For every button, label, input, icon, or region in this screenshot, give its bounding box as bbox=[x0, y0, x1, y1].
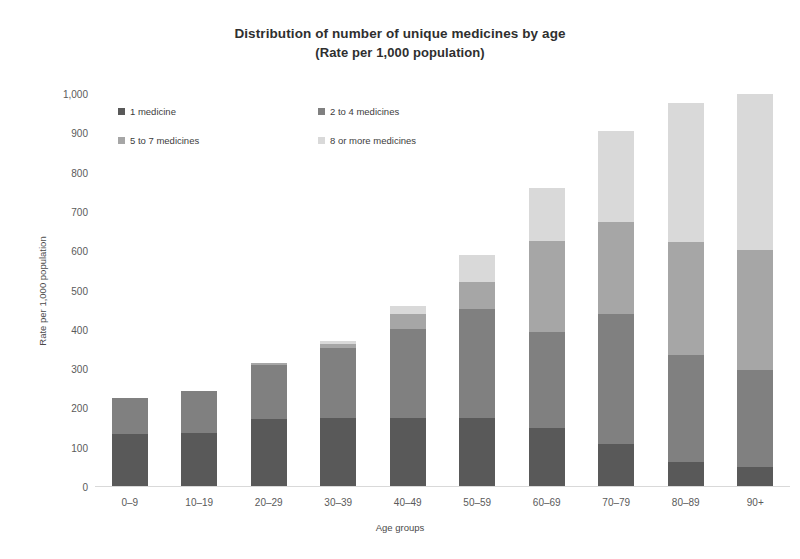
y-axis-tick-label: 500 bbox=[71, 285, 88, 296]
bar-segment-series-2[interactable] bbox=[459, 309, 495, 418]
stacked-bar[interactable] bbox=[598, 131, 634, 487]
bar-segment-series-3[interactable] bbox=[529, 241, 565, 331]
y-axis-tick-label: 900 bbox=[71, 128, 88, 139]
y-axis-tick-label: 600 bbox=[71, 246, 88, 257]
bar-segment-series-3[interactable] bbox=[598, 222, 634, 314]
plot-area bbox=[95, 94, 790, 487]
bar-segment-series-2[interactable] bbox=[668, 355, 704, 462]
bar-column[interactable] bbox=[721, 94, 791, 487]
bar-segment-series-1[interactable] bbox=[529, 428, 565, 487]
y-axis-title-wrapper: Rate per 1,000 population bbox=[14, 94, 34, 487]
stacked-bar[interactable] bbox=[112, 398, 148, 487]
bar-segment-series-2[interactable] bbox=[390, 329, 426, 417]
bar-segment-series-1[interactable] bbox=[390, 418, 426, 487]
stacked-bar[interactable] bbox=[529, 188, 565, 487]
y-axis-tick-label: 700 bbox=[71, 206, 88, 217]
chart-figure: Distribution of number of unique medicin… bbox=[0, 0, 800, 559]
bar-segment-series-4[interactable] bbox=[390, 306, 426, 313]
x-axis-tick-label: 20–29 bbox=[234, 497, 304, 508]
bar-segment-series-1[interactable] bbox=[181, 433, 217, 487]
bar-segment-series-1[interactable] bbox=[668, 462, 704, 487]
bar-segment-series-4[interactable] bbox=[737, 94, 773, 250]
y-axis-tick-label: 1,000 bbox=[63, 89, 88, 100]
bar-segment-series-1[interactable] bbox=[320, 418, 356, 487]
bar-segment-series-3[interactable] bbox=[459, 282, 495, 309]
bar-segment-series-1[interactable] bbox=[598, 444, 634, 487]
y-axis-tick-label: 800 bbox=[71, 167, 88, 178]
bar-segment-series-2[interactable] bbox=[181, 391, 217, 433]
x-axis-tick-label: 30–39 bbox=[304, 497, 374, 508]
chart-subtitle: (Rate per 1,000 population) bbox=[0, 43, 800, 62]
x-axis-tick-label: 40–49 bbox=[373, 497, 443, 508]
stacked-bar[interactable] bbox=[320, 341, 356, 487]
x-axis-tick-label: 50–59 bbox=[443, 497, 513, 508]
bar-segment-series-1[interactable] bbox=[251, 419, 287, 487]
bar-segment-series-2[interactable] bbox=[737, 370, 773, 467]
bar-segment-series-4[interactable] bbox=[459, 255, 495, 282]
bar-column[interactable] bbox=[304, 94, 374, 487]
y-axis-tick-label: 300 bbox=[71, 364, 88, 375]
y-axis-tick-label: 200 bbox=[71, 403, 88, 414]
stacked-bar[interactable] bbox=[668, 103, 704, 487]
bar-column[interactable] bbox=[651, 94, 721, 487]
bar-segment-series-2[interactable] bbox=[320, 348, 356, 418]
bar-column[interactable] bbox=[234, 94, 304, 487]
bar-column[interactable] bbox=[512, 94, 582, 487]
x-axis-tick-label: 10–19 bbox=[165, 497, 235, 508]
stacked-bar[interactable] bbox=[390, 306, 426, 487]
bar-column[interactable] bbox=[582, 94, 652, 487]
chart-title: Distribution of number of unique medicin… bbox=[0, 24, 800, 43]
bar-column[interactable] bbox=[373, 94, 443, 487]
stacked-bar[interactable] bbox=[251, 363, 287, 487]
stacked-bar[interactable] bbox=[737, 94, 773, 487]
bar-column[interactable] bbox=[95, 94, 165, 487]
y-axis-tick-label: 0 bbox=[82, 482, 88, 493]
x-axis-tick-label: 80–89 bbox=[651, 497, 721, 508]
y-axis-tick-label: 400 bbox=[71, 324, 88, 335]
bar-segment-series-4[interactable] bbox=[529, 188, 565, 241]
bar-segment-series-2[interactable] bbox=[251, 365, 287, 420]
bar-segment-series-3[interactable] bbox=[668, 242, 704, 355]
x-axis-tick-label: 0–9 bbox=[95, 497, 165, 508]
x-axis-tick-label: 70–79 bbox=[582, 497, 652, 508]
x-axis-line bbox=[95, 486, 790, 487]
stacked-bar[interactable] bbox=[181, 391, 217, 487]
y-axis-ticks: 01002003004005006007008009001,000 bbox=[40, 94, 88, 487]
bar-segment-series-2[interactable] bbox=[598, 314, 634, 444]
bar-segment-series-3[interactable] bbox=[737, 250, 773, 370]
stacked-bar[interactable] bbox=[459, 255, 495, 487]
x-axis-title: Age groups bbox=[0, 522, 800, 533]
bar-segment-series-4[interactable] bbox=[598, 131, 634, 221]
bar-segment-series-1[interactable] bbox=[737, 467, 773, 487]
bar-segment-series-2[interactable] bbox=[529, 332, 565, 428]
bar-segment-series-4[interactable] bbox=[668, 103, 704, 242]
bar-segment-series-3[interactable] bbox=[390, 314, 426, 330]
bar-segment-series-1[interactable] bbox=[112, 434, 148, 487]
x-axis-tick-label: 90+ bbox=[721, 497, 791, 508]
y-axis-tick-label: 100 bbox=[71, 442, 88, 453]
bar-column[interactable] bbox=[443, 94, 513, 487]
x-axis-tick-label: 60–69 bbox=[512, 497, 582, 508]
bar-segment-series-2[interactable] bbox=[112, 398, 148, 434]
x-axis-ticks: 0–910–1920–2930–3940–4950–5960–6970–7980… bbox=[95, 497, 790, 508]
bar-column[interactable] bbox=[165, 94, 235, 487]
chart-title-block: Distribution of number of unique medicin… bbox=[0, 24, 800, 62]
bar-series-group bbox=[95, 94, 790, 487]
bar-segment-series-1[interactable] bbox=[459, 418, 495, 487]
